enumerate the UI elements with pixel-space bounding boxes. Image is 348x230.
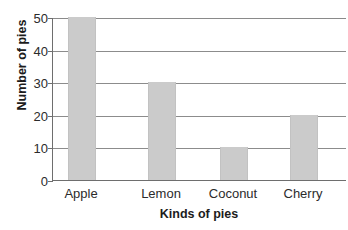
x-axis-line <box>52 180 346 181</box>
y-tick-mark <box>48 116 53 117</box>
x-tick-label-lemon: Lemon <box>141 186 181 201</box>
y-tick-label: 40 <box>22 44 48 57</box>
x-axis-tick-labels: AppleLemonCoconutCherry <box>52 186 346 204</box>
bar-apple <box>68 17 96 180</box>
bar-chart-figure: Number of pies 50403020100 AppleLemonCoc… <box>0 0 348 230</box>
x-tick-label-cherry: Cherry <box>283 186 322 201</box>
bar-coconut <box>220 147 248 180</box>
y-tick-label: 10 <box>22 142 48 155</box>
x-tick-label-apple: Apple <box>64 186 97 201</box>
y-tick-mark <box>48 83 53 84</box>
chart-title <box>0 0 348 6</box>
gridline <box>52 18 346 19</box>
y-axis-line <box>52 18 53 181</box>
y-tick-label: 0 <box>22 175 48 188</box>
y-tick-mark <box>48 51 53 52</box>
y-axis-tick-labels: 50403020100 <box>22 0 48 230</box>
y-tick-label: 30 <box>22 77 48 90</box>
y-tick-mark <box>48 18 53 19</box>
bar-lemon <box>148 82 176 180</box>
y-tick-label: 50 <box>22 12 48 25</box>
y-tick-mark <box>48 148 53 149</box>
plot-area <box>52 18 346 181</box>
y-tick-mark <box>48 181 53 182</box>
x-axis-title: Kinds of pies <box>52 207 346 221</box>
gridline <box>52 83 346 84</box>
gridline <box>52 51 346 52</box>
y-tick-label: 20 <box>22 109 48 122</box>
x-tick-label-coconut: Coconut <box>209 186 257 201</box>
bar-cherry <box>290 115 318 180</box>
